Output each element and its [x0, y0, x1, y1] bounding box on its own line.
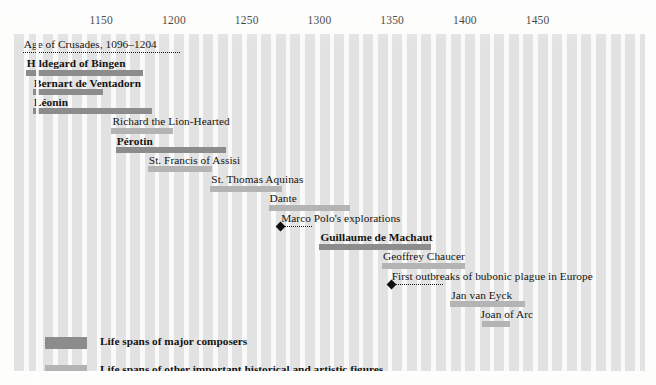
- row-label: Geoffrey Chaucer: [383, 250, 465, 262]
- timeline-row: Pérotin: [14, 135, 645, 154]
- timeline-row: Jan van Eyck: [14, 289, 645, 308]
- event-dotted-line: [285, 226, 312, 227]
- lifespan-bar: [319, 244, 431, 250]
- timeline-row: Hildegard of Bingen: [14, 57, 645, 76]
- timeline-figure: Age of Crusades, 1096–1204Hildegard of B…: [0, 0, 656, 385]
- lifespan-bar: [482, 321, 510, 327]
- x-axis-tick-labels: 1150120012501300135014001450: [14, 14, 645, 34]
- timeline-row: Age of Crusades, 1096–1204: [14, 38, 645, 57]
- lifespan-bar: [210, 186, 281, 192]
- timeline-row: Richard the Lion-Hearted: [14, 115, 645, 134]
- diamond-icon: [386, 279, 396, 289]
- lifespan-bar: [116, 147, 227, 153]
- lifespan-bar: [33, 89, 103, 95]
- x-tick-1300: 1300: [308, 14, 332, 26]
- timeline-row: Léonin: [14, 96, 645, 115]
- timeline-row: First outbreaks of bubonic plague in Eur…: [14, 270, 645, 289]
- event-dotted-line: [23, 52, 180, 53]
- timeline-row: Marco Polo's explorations: [14, 212, 645, 231]
- timeline-row: Joan of Arc: [14, 308, 645, 327]
- row-label: Joan of Arc: [480, 308, 533, 320]
- lifespan-bar: [33, 108, 152, 114]
- x-tick-1350: 1350: [380, 14, 404, 26]
- row-label: Jan van Eyck: [451, 289, 512, 301]
- x-tick-1450: 1450: [526, 14, 550, 26]
- timeline-row: Dante: [14, 192, 645, 211]
- x-tick-1250: 1250: [235, 14, 259, 26]
- timeline-row: Geoffrey Chaucer: [14, 250, 645, 269]
- row-label: Léonin: [34, 96, 68, 108]
- x-tick-1150: 1150: [90, 14, 113, 26]
- legend-label: Life spans of major composers: [100, 335, 247, 347]
- diamond-icon: [276, 221, 286, 231]
- row-label: St. Francis of Assisi: [149, 154, 240, 166]
- x-tick-1400: 1400: [453, 14, 477, 26]
- event-dotted-line: [396, 284, 443, 285]
- lifespan-bar: [269, 205, 350, 211]
- chart-plot-area: Age of Crusades, 1096–1204Hildegard of B…: [14, 34, 645, 371]
- timeline-row: St. Francis of Assisi: [14, 154, 645, 173]
- x-tick-1200: 1200: [162, 14, 186, 26]
- row-label: Guillaume de Machaut: [320, 231, 432, 243]
- lifespan-bar: [450, 301, 524, 307]
- row-label: Pérotin: [117, 135, 153, 147]
- timeline-row: St. Thomas Aquinas: [14, 173, 645, 192]
- lifespan-bar: [26, 70, 144, 76]
- lifespan-bar: [148, 166, 212, 172]
- legend-swatch: [45, 337, 87, 349]
- lifespan-bar: [111, 128, 172, 134]
- row-label: Richard the Lion-Hearted: [112, 115, 229, 127]
- legend-label: Life spans of other important historical…: [100, 363, 383, 371]
- row-label: St. Thomas Aquinas: [211, 173, 303, 185]
- timeline-row: Guillaume de Machaut: [14, 231, 645, 250]
- lifespan-bar: [382, 263, 465, 269]
- legend-swatch: [45, 365, 87, 371]
- row-label: Dante: [270, 192, 297, 204]
- row-label: Hildegard of Bingen: [27, 57, 126, 69]
- row-label: Bernart de Ventadorn: [34, 77, 141, 89]
- timeline-row: Bernart de Ventadorn: [14, 77, 645, 96]
